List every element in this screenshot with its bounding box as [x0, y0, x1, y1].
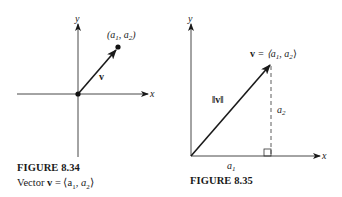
y-axis-label: y	[74, 13, 80, 24]
x-axis-label: x	[149, 88, 155, 99]
vertical-leg-label: a2	[277, 104, 286, 117]
vector-v-arrow	[191, 65, 270, 156]
figure-8-34-title: FIGURE 8.34	[17, 162, 80, 173]
x-axis-label: x	[321, 150, 327, 161]
vector-v-label: v	[99, 71, 104, 82]
y-axis-label: y	[187, 13, 193, 24]
horizontal-leg-label: a1	[227, 160, 236, 173]
vector-v-arrow	[78, 50, 116, 94]
right-angle-marker	[264, 149, 271, 156]
figure-8-35-diagram: y x v = ⟨a1, a2⟩ ‖v‖ a2 a1	[187, 13, 327, 173]
magnitude-label: ‖v‖	[212, 94, 223, 105]
endpoint-dot	[115, 44, 120, 49]
figure-8-34-diagram: y x v (a1, a2)	[17, 13, 155, 157]
point-label: (a1, a2)	[107, 29, 136, 42]
origin-dot	[75, 91, 80, 96]
vector-v-label: v = ⟨a1, a2⟩	[250, 48, 297, 61]
figure-8-34-caption: Vector v = ⟨a1, a2⟩	[17, 176, 94, 191]
figure-8-35-title: FIGURE 8.35	[190, 175, 253, 186]
